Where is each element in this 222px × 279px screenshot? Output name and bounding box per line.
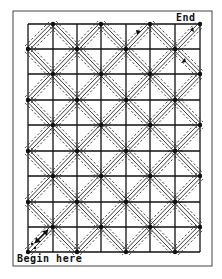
- intersection-dots: [26, 22, 202, 254]
- quilting-diagram: [0, 0, 222, 279]
- start-arrow-icon: [31, 230, 48, 249]
- diagonal-stitch-lines: [25, 21, 203, 255]
- begin-here-label: Begin here: [17, 253, 82, 264]
- grid-lines: [28, 24, 200, 252]
- end-label: End: [176, 12, 196, 23]
